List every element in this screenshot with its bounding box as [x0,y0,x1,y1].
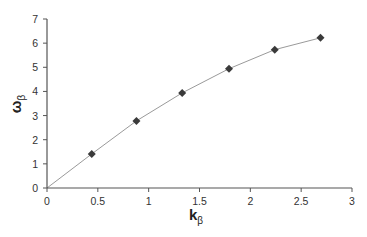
y-tick-label: 5 [32,61,38,73]
x-tick-label: 2 [247,195,253,207]
y-tick-label: 6 [32,37,38,49]
y-tick-label: 1 [32,158,38,170]
plot-area [47,34,324,188]
x-tick-label: 3 [349,195,355,207]
y-tick-label: 0 [32,182,38,194]
x-axis-ticks: 00.511.522.53 [44,188,355,207]
data-point-diamond [132,117,140,125]
axes [47,19,352,188]
x-axis-title: kβ [189,206,203,226]
x-tick-label: 0.5 [91,195,106,207]
data-point-diamond [225,65,233,73]
fit-line [47,38,320,188]
data-point-diamond [316,34,324,42]
y-tick-label: 7 [32,13,38,25]
y-tick-label: 3 [32,110,38,122]
y-axis-title: ωβ [7,95,27,114]
data-point-diamond [88,150,96,158]
data-point-diamond [178,89,186,97]
y-axis-ticks: 01234567 [32,13,47,194]
y-tick-label: 2 [32,134,38,146]
x-tick-label: 2.5 [294,195,309,207]
x-tick-label: 0 [44,195,50,207]
chart: 00.511.522.53 01234567 kβ ωβ [0,0,367,237]
y-tick-label: 4 [32,85,38,97]
data-point-diamond [271,46,279,54]
x-tick-label: 1 [146,195,152,207]
